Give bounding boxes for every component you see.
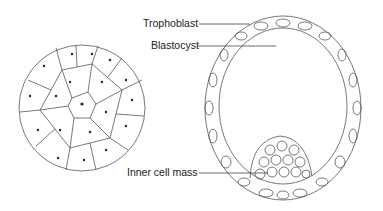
diagram-canvas — [0, 0, 383, 211]
label-trophoblast: Trophoblast — [143, 17, 198, 29]
morula — [19, 45, 145, 171]
leader-lines — [197, 24, 276, 173]
label-blastocyst: Blastocyst — [151, 39, 199, 51]
blastocyst — [205, 16, 361, 200]
label-inner-cell-mass: Inner cell mass — [127, 166, 198, 178]
